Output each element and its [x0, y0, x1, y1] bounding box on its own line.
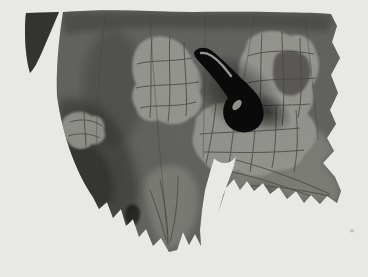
leaf-larva-photo	[0, 0, 368, 277]
photo-figure	[0, 0, 368, 277]
dust-speck	[350, 230, 354, 233]
